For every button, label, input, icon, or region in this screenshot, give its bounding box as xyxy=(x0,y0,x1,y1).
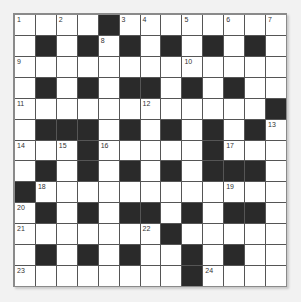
answer-cell[interactable]: 4 xyxy=(141,15,161,35)
answer-cell[interactable] xyxy=(57,57,77,77)
answer-cell[interactable] xyxy=(266,266,286,286)
answer-cell[interactable] xyxy=(120,141,140,161)
answer-cell[interactable] xyxy=(245,141,265,161)
answer-cell[interactable] xyxy=(120,266,140,286)
answer-cell[interactable] xyxy=(15,245,35,265)
answer-cell[interactable] xyxy=(182,161,202,181)
answer-cell[interactable]: 6 xyxy=(224,15,244,35)
answer-cell[interactable]: 13 xyxy=(266,120,286,140)
answer-cell[interactable] xyxy=(78,266,98,286)
answer-cell[interactable]: 11 xyxy=(15,99,35,119)
answer-cell[interactable] xyxy=(161,99,181,119)
answer-cell[interactable] xyxy=(245,245,265,265)
answer-cell[interactable] xyxy=(141,141,161,161)
answer-cell[interactable]: 21 xyxy=(15,224,35,244)
answer-cell[interactable] xyxy=(266,245,286,265)
answer-cell[interactable] xyxy=(99,266,119,286)
answer-cell[interactable] xyxy=(161,57,181,77)
answer-cell[interactable] xyxy=(224,99,244,119)
answer-cell[interactable] xyxy=(99,120,119,140)
answer-cell[interactable]: 3 xyxy=(120,15,140,35)
answer-cell[interactable] xyxy=(245,15,265,35)
answer-cell[interactable] xyxy=(245,78,265,98)
answer-cell[interactable] xyxy=(15,161,35,181)
answer-cell[interactable] xyxy=(266,182,286,202)
answer-cell[interactable] xyxy=(245,266,265,286)
answer-cell[interactable] xyxy=(78,224,98,244)
answer-cell[interactable] xyxy=(57,245,77,265)
answer-cell[interactable] xyxy=(36,141,56,161)
answer-cell[interactable] xyxy=(161,203,181,223)
answer-cell[interactable] xyxy=(203,78,223,98)
answer-cell[interactable]: 20 xyxy=(15,203,35,223)
answer-cell[interactable]: 12 xyxy=(141,99,161,119)
answer-cell[interactable] xyxy=(161,245,181,265)
answer-cell[interactable] xyxy=(99,99,119,119)
answer-cell[interactable] xyxy=(245,99,265,119)
answer-cell[interactable] xyxy=(120,182,140,202)
answer-cell[interactable]: 23 xyxy=(15,266,35,286)
answer-cell[interactable] xyxy=(120,57,140,77)
answer-cell[interactable] xyxy=(161,266,181,286)
answer-cell[interactable]: 17 xyxy=(224,141,244,161)
answer-cell[interactable] xyxy=(203,182,223,202)
answer-cell[interactable] xyxy=(224,266,244,286)
answer-cell[interactable] xyxy=(266,141,286,161)
answer-cell[interactable] xyxy=(78,15,98,35)
answer-cell[interactable] xyxy=(266,36,286,56)
answer-cell[interactable] xyxy=(245,224,265,244)
answer-cell[interactable]: 18 xyxy=(36,182,56,202)
answer-cell[interactable] xyxy=(141,161,161,181)
answer-cell[interactable]: 1 xyxy=(15,15,35,35)
answer-cell[interactable] xyxy=(266,161,286,181)
answer-cell[interactable] xyxy=(57,36,77,56)
answer-cell[interactable] xyxy=(78,182,98,202)
answer-cell[interactable] xyxy=(203,224,223,244)
answer-cell[interactable]: 2 xyxy=(57,15,77,35)
answer-cell[interactable] xyxy=(15,120,35,140)
answer-cell[interactable] xyxy=(99,203,119,223)
answer-cell[interactable] xyxy=(203,245,223,265)
answer-cell[interactable]: 16 xyxy=(99,141,119,161)
answer-cell[interactable]: 9 xyxy=(15,57,35,77)
answer-cell[interactable] xyxy=(161,15,181,35)
answer-cell[interactable] xyxy=(245,182,265,202)
answer-cell[interactable] xyxy=(99,78,119,98)
answer-cell[interactable] xyxy=(36,99,56,119)
answer-cell[interactable] xyxy=(15,78,35,98)
answer-cell[interactable] xyxy=(120,224,140,244)
answer-cell[interactable] xyxy=(266,224,286,244)
answer-cell[interactable]: 24 xyxy=(203,266,223,286)
answer-cell[interactable]: 14 xyxy=(15,141,35,161)
answer-cell[interactable] xyxy=(161,78,181,98)
answer-cell[interactable]: 5 xyxy=(182,15,202,35)
answer-cell[interactable] xyxy=(141,266,161,286)
answer-cell[interactable] xyxy=(57,78,77,98)
answer-cell[interactable]: 22 xyxy=(141,224,161,244)
answer-cell[interactable] xyxy=(57,99,77,119)
answer-cell[interactable] xyxy=(57,182,77,202)
answer-cell[interactable] xyxy=(99,161,119,181)
answer-cell[interactable]: 19 xyxy=(224,182,244,202)
answer-cell[interactable] xyxy=(78,57,98,77)
answer-cell[interactable]: 10 xyxy=(182,57,202,77)
answer-cell[interactable] xyxy=(141,245,161,265)
answer-cell[interactable] xyxy=(182,120,202,140)
answer-cell[interactable]: 8 xyxy=(99,36,119,56)
answer-cell[interactable] xyxy=(182,141,202,161)
answer-cell[interactable]: 15 xyxy=(57,141,77,161)
answer-cell[interactable] xyxy=(36,224,56,244)
answer-cell[interactable] xyxy=(15,36,35,56)
answer-cell[interactable] xyxy=(57,203,77,223)
answer-cell[interactable] xyxy=(99,224,119,244)
answer-cell[interactable] xyxy=(224,57,244,77)
answer-cell[interactable] xyxy=(99,182,119,202)
answer-cell[interactable] xyxy=(182,182,202,202)
answer-cell[interactable] xyxy=(266,203,286,223)
answer-cell[interactable] xyxy=(161,182,181,202)
answer-cell[interactable] xyxy=(182,36,202,56)
answer-cell[interactable] xyxy=(224,224,244,244)
answer-cell[interactable] xyxy=(57,266,77,286)
answer-cell[interactable] xyxy=(99,57,119,77)
answer-cell[interactable] xyxy=(203,203,223,223)
